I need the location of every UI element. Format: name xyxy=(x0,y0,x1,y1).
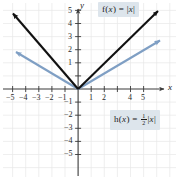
eq-f-mid: ) = | xyxy=(113,4,129,14)
y-tick-label: 3 xyxy=(68,32,72,41)
y-tick-label: −5 xyxy=(64,149,73,158)
eq-f-prefix: f( xyxy=(102,4,109,14)
x-tick-label: −3 xyxy=(32,93,41,102)
series-h-half-abs-x xyxy=(16,41,160,90)
x-axis-label: x xyxy=(168,82,172,92)
y-tick-label: 2 xyxy=(68,45,72,54)
x-tick-label: −5 xyxy=(6,93,15,102)
x-tick-label: 5 xyxy=(141,93,145,102)
x-tick-label: −4 xyxy=(19,93,28,102)
equation-label-f: f(x) = |x| xyxy=(98,2,139,17)
eq-f-suffix: | xyxy=(133,4,135,14)
y-tick-label: −3 xyxy=(64,123,73,132)
y-tick-label: 4 xyxy=(68,19,72,28)
equation-label-h: h(x) = 12|x| xyxy=(110,110,160,130)
grid-lines xyxy=(3,3,176,177)
x-tick-label: 4 xyxy=(128,93,132,102)
eq-h-numerator: 1 xyxy=(141,113,146,120)
y-tick-label: −2 xyxy=(64,110,73,119)
y-axis-label: y xyxy=(80,0,84,10)
x-tick-label: −2 xyxy=(45,93,54,102)
eq-h-denominator: 2 xyxy=(141,120,146,126)
y-tick-label: 5 xyxy=(68,6,72,15)
eq-h-mid: ) = xyxy=(126,114,140,124)
plot-canvas xyxy=(0,0,179,180)
y-tick-label: −4 xyxy=(64,136,73,145)
eq-h-fraction: 12 xyxy=(141,113,146,127)
y-tick-label: −1 xyxy=(64,97,73,106)
eq-h-bar2: | xyxy=(154,114,156,124)
eq-h-prefix: h( xyxy=(114,114,122,124)
x-tick-label: 2 xyxy=(102,93,106,102)
x-tick-label: 1 xyxy=(89,93,93,102)
absolute-value-graph-figure: y x −5 −4 −3 −2 −1 1 2 4 5 5 4 3 2 1 −1 … xyxy=(0,0,179,180)
y-tick-label: 1 xyxy=(68,58,72,67)
